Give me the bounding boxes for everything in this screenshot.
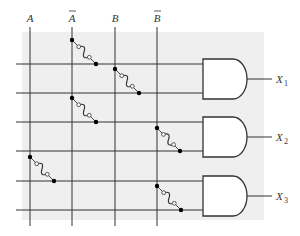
fuse-node-dot (113, 67, 117, 71)
output-label-x2: X (275, 131, 284, 143)
fuse-node-dot (155, 184, 159, 188)
output-label-x1: X (275, 73, 284, 85)
and-gate-body (203, 59, 247, 99)
and-gate-body (203, 176, 247, 216)
fuse-node-dot (70, 96, 74, 100)
fuse-node-dot (137, 91, 141, 95)
output-subscript: 3 (284, 196, 288, 205)
input-label-a: A (26, 12, 34, 24)
input-label-b: B (112, 12, 119, 24)
fuse-node-dot (155, 126, 159, 130)
pla-diagram: AABB X1X2X3 (0, 0, 300, 236)
output-subscript: 2 (284, 137, 288, 146)
output-subscript: 1 (284, 79, 288, 88)
fuse-node-dot (179, 208, 183, 212)
and-gate-body (203, 117, 247, 157)
fuse-node-dot (28, 155, 32, 159)
fuse-node-dot (52, 179, 56, 183)
output-label-x3: X (275, 190, 284, 202)
fuse-node-dot (178, 149, 182, 153)
and-gates: X1X2X3 (203, 59, 288, 216)
fuse-node-dot (94, 62, 98, 66)
input-label-abar: A (68, 12, 76, 24)
input-label-bbar: B (154, 12, 161, 24)
input-labels: AABB (26, 11, 161, 24)
fuse-node-dot (70, 38, 74, 42)
fuse-node-dot (94, 120, 98, 124)
